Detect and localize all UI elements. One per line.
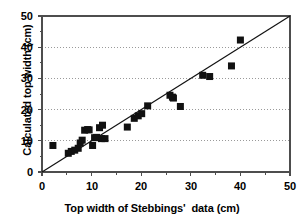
data-point: [138, 110, 145, 117]
data-point: [86, 126, 93, 133]
data-point: [237, 37, 244, 44]
data-point: [89, 142, 96, 149]
data-point: [199, 72, 206, 79]
data-point: [206, 73, 213, 80]
data-point: [144, 102, 151, 109]
data-point: [99, 122, 106, 129]
data-point: [79, 137, 86, 144]
data-points: [49, 37, 243, 157]
plot-area: [0, 0, 304, 223]
data-point: [49, 142, 56, 149]
data-point: [170, 95, 177, 102]
data-point: [124, 124, 131, 131]
data-point: [228, 62, 235, 69]
scatter-chart-figure: Calculated top width (cm) Top width of S…: [0, 0, 304, 223]
data-point: [101, 135, 108, 142]
data-point: [177, 103, 184, 110]
